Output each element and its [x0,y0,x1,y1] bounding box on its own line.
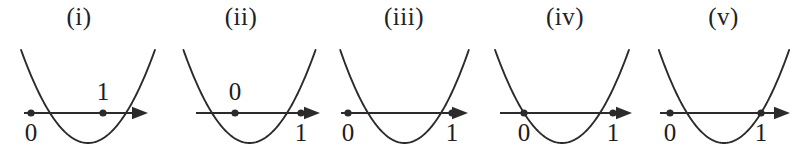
marked-point-zero [666,109,673,116]
axis-arrowhead-icon [774,107,790,119]
diagram-panel: (iv)01 [484,0,646,156]
marked-point-zero [520,109,527,116]
marked-point-one [99,109,106,116]
figure-root: (i)01(ii)01(iii)01(iv)01(v)01 [0,0,801,156]
tick-label-one: 1 [289,120,313,145]
tick-label-zero: 0 [223,79,247,104]
diagram-panel: (v)01 [646,0,801,156]
marked-point-zero [231,109,238,116]
marked-point-one [448,109,455,116]
diagram-panel: (iii)01 [324,0,484,156]
tick-label-one: 1 [440,120,464,145]
marked-point-one [297,109,304,116]
tick-label-zero: 0 [19,120,43,145]
tick-label-zero: 0 [512,120,536,145]
marked-point-zero [344,109,351,116]
axis-arrowhead-icon [132,107,148,119]
axis-arrowhead-icon [616,107,632,119]
tick-label-zero: 0 [658,120,682,145]
marked-point-one [757,109,764,116]
tick-label-one: 1 [749,120,773,145]
diagram-panel: (ii)01 [158,0,324,156]
tick-label-zero: 0 [336,120,360,145]
diagram-panel: (i)01 [0,0,158,156]
tick-label-one: 1 [601,120,625,145]
axis-arrowhead-icon [304,107,320,119]
marked-point-one [609,109,616,116]
marked-point-zero [27,109,34,116]
tick-label-one: 1 [91,79,115,104]
